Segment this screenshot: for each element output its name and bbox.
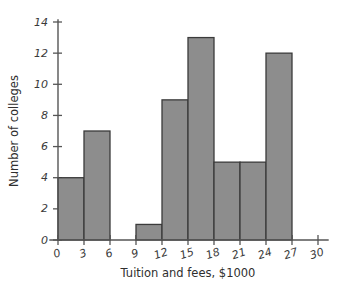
y-axis-tick-labels: 02468101214 [34,16,48,247]
bar-series [58,38,292,240]
y-tick-label: 4 [41,171,48,184]
histogram-bar [188,38,214,240]
histogram-chart: 02468101214 036912151821242730 Tuition a… [0,0,342,288]
x-tick-label: 18 [204,245,221,262]
histogram-bar [58,178,84,240]
y-tick-label: 14 [34,16,48,29]
x-tick-label: 12 [152,245,169,262]
x-tick-label: 9 [130,246,141,261]
x-tick-label: 24 [256,245,273,262]
histogram-bar [214,162,240,240]
y-axis-title: Number of colleges [7,75,21,187]
y-tick-label: 2 [41,202,48,215]
histogram-bar [162,100,188,240]
y-tick-label: 10 [34,78,48,91]
histogram-bar [240,162,266,240]
x-tick-label: 6 [104,246,115,261]
histogram-bar [84,131,110,240]
histogram-bar [136,224,162,240]
x-tick-label: 30 [308,245,325,262]
x-tick-label: 0 [52,246,63,261]
y-tick-label: 12 [34,47,48,60]
x-axis-tick-labels: 036912151821242730 [52,245,326,262]
histogram-bar [266,53,292,240]
y-tick-label: 6 [41,140,48,153]
y-tick-label: 0 [41,234,48,247]
x-tick-label: 15 [178,245,195,262]
x-tick-label: 3 [78,246,89,261]
y-tick-label: 8 [41,109,48,122]
chart-canvas: 02468101214 036912151821242730 Tuition a… [0,0,342,288]
x-tick-label: 27 [282,245,299,262]
x-tick-label: 21 [230,245,247,262]
x-axis-title: Tuition and fees, $1000 [120,266,256,280]
